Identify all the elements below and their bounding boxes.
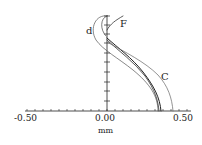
label-C: C	[161, 72, 169, 82]
curve-main-1	[107, 38, 161, 111]
x-axis-unit: mm	[98, 127, 113, 135]
curve-main-2	[107, 40, 159, 111]
x-tick-label-zero: 0.00	[95, 114, 115, 123]
x-tick-label-pos: 0.50	[173, 114, 193, 123]
curve-d-inner	[102, 16, 107, 36]
label-d: d	[86, 26, 92, 36]
chart-plot	[0, 0, 202, 145]
data-curves	[93, 16, 173, 111]
curve-d	[93, 16, 158, 111]
x-tick-label-neg: -0.50	[14, 114, 37, 123]
label-F: F	[120, 19, 127, 29]
